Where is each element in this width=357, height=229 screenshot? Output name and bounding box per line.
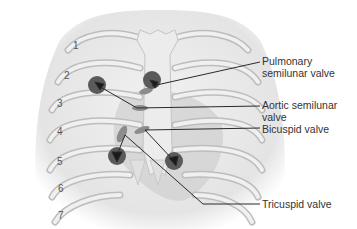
rib-number-3: 3 xyxy=(57,98,63,109)
rib-number-4: 4 xyxy=(57,126,63,137)
rib-number-1: 1 xyxy=(73,40,79,51)
thoracic-cage-diagram: 1 2 3 4 5 6 7 Pulmonary semilunar valve … xyxy=(0,0,357,229)
rib-number-2: 2 xyxy=(64,70,70,81)
rib-number-7: 7 xyxy=(58,210,64,221)
rib-number-5: 5 xyxy=(57,156,63,167)
label-pulmonary-semilunar-valve: Pulmonary semilunar valve xyxy=(262,55,335,79)
label-tricuspid-valve: Tricuspid valve xyxy=(262,198,332,210)
label-aortic-semilunar-valve: Aortic semilunar valve xyxy=(262,99,337,123)
label-bicuspid-valve: Bicuspid valve xyxy=(262,123,329,135)
rib-number-6: 6 xyxy=(58,183,64,194)
